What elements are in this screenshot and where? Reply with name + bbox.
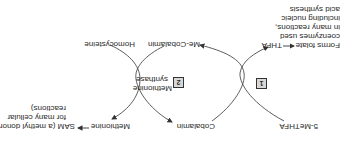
step-badge-2: 2 [173, 77, 184, 88]
label-methionine-synthase-2: synthase [136, 75, 168, 84]
label-sam-note-1: SAM (a methyl donor [0, 122, 75, 131]
label-folate-note-2: in many reactions, [275, 23, 340, 32]
step-badge-1: 1 [256, 78, 267, 89]
label-me-cobalamin: Me-Cobalamin [148, 40, 200, 49]
label-5-methfa: 5-MeTHFA [279, 122, 318, 131]
label-homocysteine: Homocysteine [84, 40, 135, 49]
arrow-cobalamin-to-mecobalamin [200, 45, 244, 121]
label-cobalamin: Cobalamin [177, 122, 215, 131]
label-thfa: THFA [262, 41, 282, 50]
label-methionine: Methionine [91, 122, 130, 131]
label-forms-folate: Forms folate [296, 41, 340, 50]
label-sam-note-3: reactions) [31, 104, 66, 113]
label-sam-note-2: for many cellular [7, 113, 66, 122]
methylation-cycle-diagram: 5-MeTHFA THFA Forms folate coenzymes use… [0, 0, 364, 145]
label-methionine-synthase-1: Methionine [133, 84, 172, 93]
label-folate-note-3: including nucleic [281, 14, 340, 23]
label-folate-note-1: coenzymes used [280, 32, 340, 41]
label-folate-note-4: acid synthesis [290, 5, 340, 14]
